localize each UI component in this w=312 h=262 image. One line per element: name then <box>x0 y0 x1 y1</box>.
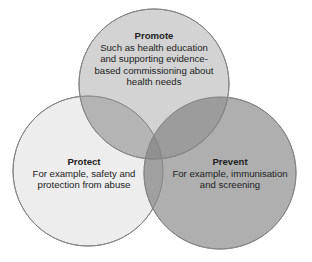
promote-desc-line-3: based commissioning about <box>79 65 229 77</box>
promote-desc-line-4: health needs <box>79 76 229 88</box>
promote-label: Promote Such as health education and sup… <box>79 30 229 88</box>
protect-label: Protect For example, safety and protecti… <box>14 156 154 191</box>
prevent-desc-line-1: For example, immunisation <box>160 168 300 180</box>
prevent-desc-line-2: and screening <box>160 179 300 191</box>
prevent-title: Prevent <box>160 156 300 168</box>
promote-desc-line-2: and supporting evidence- <box>79 53 229 65</box>
protect-title: Protect <box>14 156 154 168</box>
protect-desc-line-1: For example, safety and <box>14 168 154 180</box>
promote-desc-line-1: Such as health education <box>79 42 229 54</box>
protect-desc-line-2: protection from abuse <box>14 179 154 191</box>
prevent-label: Prevent For example, immunisation and sc… <box>160 156 300 191</box>
promote-title: Promote <box>79 30 229 42</box>
